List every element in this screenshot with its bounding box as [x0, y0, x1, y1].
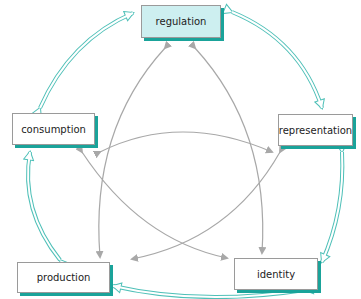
node-label: identity [257, 269, 295, 280]
node-label: representation [279, 125, 352, 136]
node-representation: representation [278, 114, 353, 146]
circuit-of-culture-diagram: regulation representation identity produ… [0, 0, 361, 299]
node-label: regulation [156, 16, 207, 27]
node-consumption: consumption [12, 113, 95, 145]
inner-arrows [82, 48, 280, 259]
node-label: production [37, 272, 91, 283]
node-label: consumption [21, 124, 86, 135]
node-regulation: regulation [141, 5, 221, 38]
node-production: production [17, 262, 110, 293]
node-identity: identity [234, 258, 318, 290]
connector-layer [0, 0, 361, 299]
